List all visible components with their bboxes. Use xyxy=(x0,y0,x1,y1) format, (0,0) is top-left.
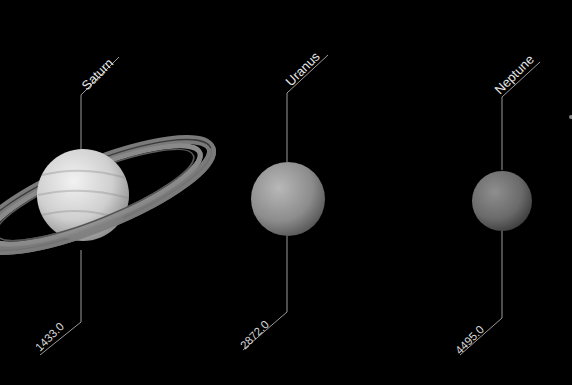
planet-chart: Saturn Uranus Neptune 1433.0 2872.0 4495… xyxy=(0,0,572,385)
neptune-globe xyxy=(472,171,532,231)
planet-value: 1433.0 xyxy=(33,320,66,353)
planet-label: Uranus xyxy=(283,49,324,90)
planet-label: Neptune xyxy=(492,52,537,97)
uranus-globe xyxy=(251,162,325,236)
planet-label: Saturn xyxy=(79,55,117,93)
planet-uranus xyxy=(243,55,328,350)
planet-value: 2872.0 xyxy=(238,318,271,351)
planet-neptune xyxy=(460,62,540,355)
planet-saturn xyxy=(0,57,223,355)
planet-value: 4495.0 xyxy=(453,323,486,356)
